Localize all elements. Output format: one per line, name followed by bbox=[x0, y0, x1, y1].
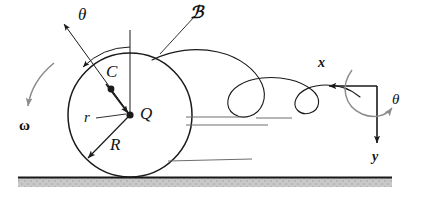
figure-svg bbox=[0, 0, 423, 203]
label-body-B: ℬ bbox=[190, 4, 203, 21]
vector-R-arrow bbox=[88, 115, 130, 158]
label-theta-axes: θ bbox=[392, 92, 399, 107]
label-radius-R: R bbox=[110, 136, 120, 153]
label-radius-r: r bbox=[84, 110, 90, 125]
r-label-leader bbox=[96, 114, 126, 118]
label-point-C: C bbox=[106, 63, 117, 80]
label-point-Q: Q bbox=[140, 105, 152, 122]
label-axis-y: y bbox=[372, 150, 378, 164]
point-Q-dot bbox=[126, 111, 133, 118]
coordinate-axes bbox=[329, 70, 392, 143]
ground-fill bbox=[18, 178, 392, 187]
figure-canvas: θ ℬ C Q r R ω x y θ bbox=[0, 0, 423, 203]
label-axis-x: x bbox=[318, 56, 325, 70]
label-theta-disk: θ bbox=[78, 6, 86, 23]
ground-surface bbox=[18, 178, 392, 188]
point-C-dot bbox=[108, 86, 115, 93]
omega-arrow bbox=[28, 63, 54, 106]
theta-arc-axes bbox=[345, 70, 392, 116]
hatch-line-4 bbox=[168, 159, 252, 161]
label-omega: ω bbox=[19, 118, 30, 133]
